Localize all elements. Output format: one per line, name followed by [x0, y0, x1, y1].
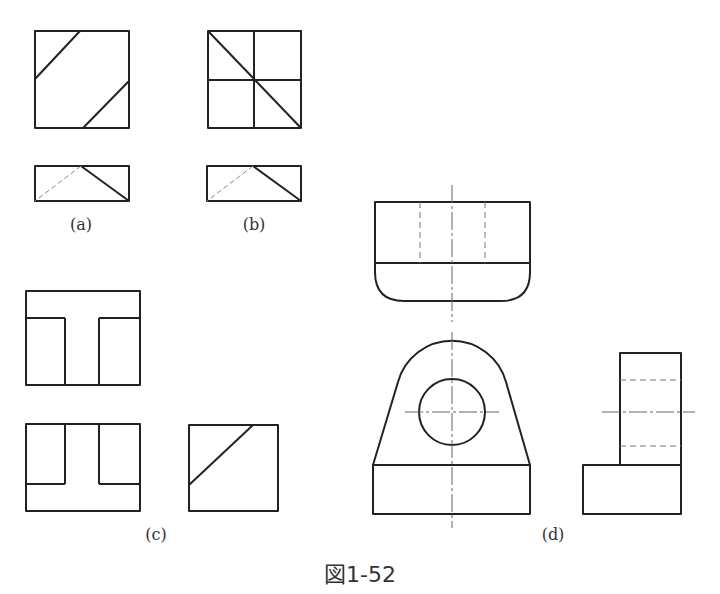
- label-a: (a): [70, 215, 92, 234]
- figure-caption: 図1-52: [324, 556, 396, 588]
- figure-a-front-view: [35, 166, 129, 201]
- figure-a-top-view: [35, 31, 129, 128]
- label-b: (b): [243, 215, 266, 234]
- figure-c-top-view: [26, 424, 140, 511]
- figure-c-side-view: [189, 425, 278, 511]
- drawing-canvas: [0, 0, 720, 594]
- label-c: (c): [145, 525, 166, 544]
- figure-c-front-view: [26, 291, 140, 385]
- label-d: (d): [542, 525, 565, 544]
- figure-d-side-view: [583, 353, 681, 514]
- figure-b-top-view: [208, 31, 301, 128]
- figure-b-front-view: [207, 166, 301, 201]
- center-lines: [405, 185, 695, 528]
